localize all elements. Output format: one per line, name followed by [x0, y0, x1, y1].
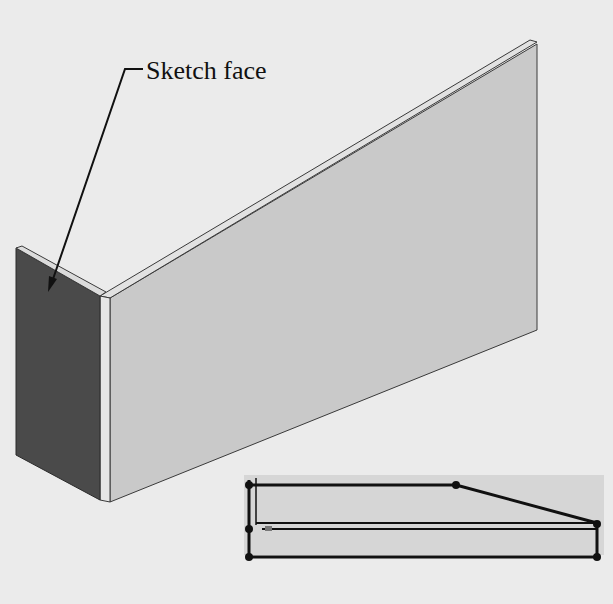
sketch-point	[593, 520, 601, 528]
cad-figure	[0, 0, 613, 604]
callout-label-sketch-face: Sketch face	[146, 58, 267, 84]
sketch-inset	[244, 475, 604, 561]
sketch-point	[593, 553, 601, 561]
sketch-inset-background	[244, 475, 604, 555]
sketch-point	[245, 481, 253, 489]
sketch-point	[245, 525, 253, 533]
sketch-point	[245, 553, 253, 561]
sketch-relation-icon	[265, 526, 272, 531]
corner-thickness-edge	[100, 296, 110, 502]
sketch-point	[452, 481, 460, 489]
